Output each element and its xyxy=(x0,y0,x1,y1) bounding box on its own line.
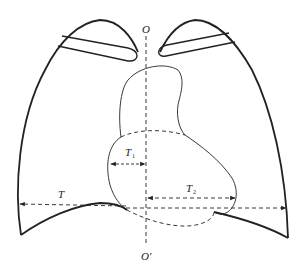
label-t1-sub: 1 xyxy=(132,153,135,159)
label-o-bottom: O' xyxy=(141,250,152,262)
heart-dashed-top xyxy=(121,131,185,137)
right-lung-base xyxy=(214,212,288,238)
left-clavicle xyxy=(58,36,137,61)
heart-dashed-bottom xyxy=(127,210,214,226)
heart-left-border xyxy=(185,135,236,214)
mediastinum-outline xyxy=(120,66,185,137)
cardiothoracic-diagram: O O' T T 1 T 2 xyxy=(0,0,300,274)
label-t2-sub: 2 xyxy=(193,189,196,195)
left-lung-base xyxy=(21,203,127,235)
label-o-top: O xyxy=(142,23,150,35)
label-t: T xyxy=(58,188,65,200)
label-t2: T xyxy=(186,182,193,194)
label-t1: T xyxy=(125,146,132,158)
